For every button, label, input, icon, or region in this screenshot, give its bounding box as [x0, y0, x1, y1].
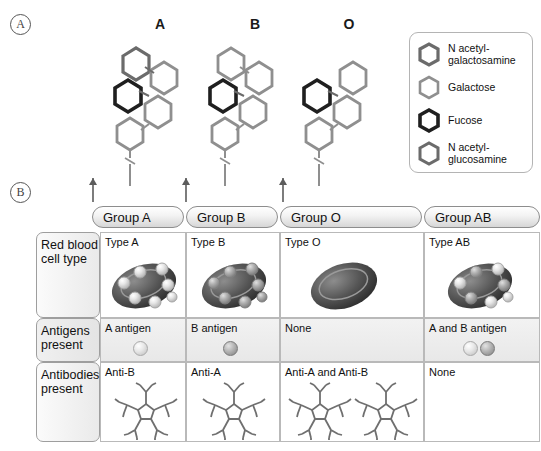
panel-label-b: B: [10, 182, 31, 203]
cell-antibodies-group-ab: None: [424, 362, 540, 442]
antigen-sphere-b: [223, 341, 238, 356]
cell-text-rbc-ab: Type AB: [429, 236, 470, 248]
blood-group-table: Group A Group B Group O Group AB Red blo…: [36, 188, 541, 446]
row-label-line1-0: Red blood: [41, 238, 99, 252]
glycan-title-a: A: [105, 16, 215, 32]
column-header-group-b: Group B: [186, 206, 278, 228]
rbc-illustration-type-a: [102, 253, 186, 315]
antigen-sphere-a-in-ab: [463, 341, 478, 356]
cell-text-antibodies-b: Anti-A: [191, 366, 221, 378]
rbc-illustration-type-o: [282, 253, 422, 315]
antigen-sphere-b-in-ab: [480, 341, 495, 356]
column-header-group-a: Group A: [92, 206, 184, 228]
cell-antibodies-group-b: Anti-A: [186, 362, 280, 442]
antibody-igm-icon-anti-b: [113, 380, 179, 440]
antibody-igm-icon-anti-b-of-o: [353, 380, 419, 440]
sugar-legend: N acetyl- galactosamine Galactose Fucose…: [409, 32, 533, 173]
column-header-group-ab: Group AB: [424, 206, 540, 228]
antibody-igm-icon-anti-a: [201, 380, 267, 440]
legend-item-fucose: Fucose: [416, 104, 528, 137]
legend-label-line1-1: Galactose: [448, 82, 495, 94]
cell-text-antigens-a: A antigen: [105, 322, 151, 334]
row-label-red-blood-cell-type: Red blood cell type: [36, 232, 100, 318]
rbc-illustration-type-b: [188, 253, 280, 315]
row-label-line2-2: present: [41, 382, 99, 396]
cell-antigens-group-ab: A and B antigen: [424, 318, 540, 362]
row-label-line2-0: cell type: [41, 252, 99, 266]
cell-text-rbc-b: Type B: [191, 236, 225, 248]
legend-label-line2-0: galactosamine: [448, 55, 516, 67]
cell-text-rbc-o: Type O: [285, 236, 320, 248]
legend-label-line1-0: N acetyl-: [448, 43, 516, 55]
row-label-line2-1: present: [41, 338, 99, 352]
cell-text-antibodies-a: Anti-B: [105, 366, 135, 378]
antigen-sphere-a: [133, 341, 148, 356]
cell-text-antigens-ab: A and B antigen: [429, 322, 507, 334]
cell-text-rbc-a: Type A: [105, 236, 139, 248]
cell-rbc-type-b: Type B: [186, 232, 280, 318]
column-header-group-o: Group O: [280, 206, 422, 228]
rbc-illustration-type-ab: [426, 253, 540, 315]
row-label-line1-1: Antigens: [41, 324, 99, 338]
antibody-igm-icon-anti-a-of-o: [287, 380, 353, 440]
cell-antigens-group-o: None: [280, 318, 424, 362]
cell-antigens-group-b: B antigen: [186, 318, 280, 362]
cell-text-antigens-b: B antigen: [191, 322, 237, 334]
row-label-antibodies-present: Antibodies present: [36, 362, 100, 442]
legend-item-n-acetyl-galactosamine: N acetyl- galactosamine: [416, 38, 528, 71]
cell-rbc-type-a: Type A: [100, 232, 186, 318]
legend-item-galactose: Galactose: [416, 71, 528, 104]
cell-antibodies-group-o: Anti-A and Anti-B: [280, 362, 424, 442]
cell-antibodies-group-a: Anti-B: [100, 362, 186, 442]
hexagon-icon-galactose: [416, 74, 442, 102]
cell-antigens-group-a: A antigen: [100, 318, 186, 362]
hexagon-icon-n-acetyl-galactosamine: [416, 41, 442, 69]
cell-text-antigens-o: None: [285, 322, 311, 334]
cell-rbc-type-ab: Type AB: [424, 232, 540, 318]
glycan-title-o: O: [294, 16, 404, 32]
legend-item-n-acetyl-glucosamine: N acetyl- glucosamine: [416, 137, 528, 170]
connector-lines: [36, 178, 541, 208]
legend-label-line2-3: glucosamine: [448, 154, 507, 166]
legend-label-line1-2: Fucose: [448, 115, 482, 127]
cell-text-antibodies-ab: None: [429, 366, 455, 378]
hexagon-icon-n-acetyl-glucosamine: [416, 140, 442, 168]
glycan-svg-a: [105, 34, 215, 194]
row-label-line1-2: Antibodies: [41, 368, 99, 382]
cell-rbc-type-o: Type O: [280, 232, 424, 318]
glycan-svg-o: [294, 34, 404, 194]
legend-label-line1-3: N acetyl-: [448, 142, 507, 154]
cell-text-antibodies-o: Anti-A and Anti-B: [285, 366, 368, 378]
hexagon-icon-fucose: [416, 107, 442, 135]
row-label-antigens-present: Antigens present: [36, 318, 100, 362]
